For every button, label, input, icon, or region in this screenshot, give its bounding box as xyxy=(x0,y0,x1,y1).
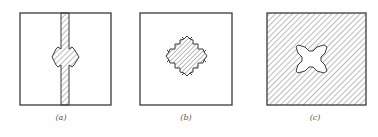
panel-a-caption: (a) xyxy=(41,113,81,122)
panel-a xyxy=(20,13,111,105)
figure-three-panels: (a) (b) (c) xyxy=(0,0,378,137)
panel-b xyxy=(140,13,232,105)
panel-b-caption: (b) xyxy=(166,113,206,122)
panel-c-caption: (c) xyxy=(295,113,335,122)
panel-c xyxy=(267,13,366,105)
